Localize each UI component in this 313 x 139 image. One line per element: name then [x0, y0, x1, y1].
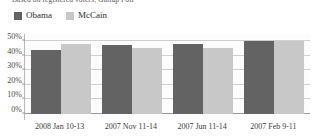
- x-axis-label: 2007 Jun 11-14: [177, 122, 226, 132]
- bar-obama: [173, 44, 203, 114]
- legend-item-obama: Obama: [14, 11, 52, 20]
- y-tick-label: 30%: [7, 62, 22, 70]
- bar-obama: [102, 45, 132, 114]
- chart-legend: Obama McCain: [14, 9, 107, 22]
- chart-source-note: Based on registered voters; Gallup Poll: [12, 0, 134, 4]
- x-axis-label: 2007 Nov 11-14: [105, 122, 157, 132]
- y-tick-label: 10%: [7, 91, 22, 99]
- bar-mccain: [274, 41, 304, 114]
- y-tick-label: 20%: [7, 77, 22, 85]
- bar-groups: [25, 34, 310, 120]
- bar-mccain: [203, 48, 233, 114]
- y-tick-label: 50%: [7, 33, 22, 41]
- y-tick-label: 40%: [7, 48, 22, 56]
- x-axis-label: 2007 Feb 9-11: [250, 122, 296, 132]
- legend-label-obama: Obama: [26, 11, 52, 20]
- bar-mccain: [132, 48, 162, 114]
- x-axis-labels: 2008 Jan 10-132007 Nov 11-142007 Jun 11-…: [24, 122, 309, 136]
- bar-obama: [31, 50, 61, 114]
- bar-obama: [244, 41, 274, 114]
- legend-swatch-obama: [14, 12, 22, 20]
- legend-item-mccain: McCain: [66, 11, 107, 20]
- y-tick-label: 0%: [11, 106, 22, 114]
- plot-area: 0%10%20%30%40%50%: [24, 34, 310, 120]
- legend-swatch-mccain: [66, 12, 74, 20]
- x-axis-label: 2008 Jan 10-13: [35, 122, 84, 132]
- bar-mccain: [61, 44, 91, 114]
- legend-label-mccain: McCain: [78, 11, 107, 20]
- bar-chart-figure: Based on registered voters; Gallup Poll …: [0, 0, 313, 139]
